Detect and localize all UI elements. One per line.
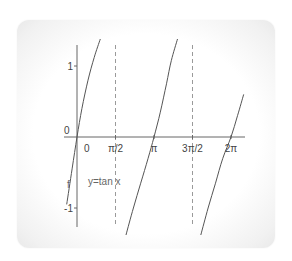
function-annotation: y=tan x	[88, 176, 121, 187]
tan-curve-branch-3	[201, 94, 244, 235]
x-tick-label: 0	[84, 143, 90, 154]
tan-chart: 0π/2π3π/22π1-1 0 f y=tan x	[0, 0, 292, 261]
y-tick-label: 1	[67, 61, 73, 72]
x-tick-label: π/2	[108, 143, 124, 154]
x-tick-label: 3π/2	[182, 143, 203, 154]
origin-label: 0	[64, 125, 70, 136]
y-axis-label: f	[67, 179, 70, 190]
y-tick-label: -1	[64, 203, 73, 214]
